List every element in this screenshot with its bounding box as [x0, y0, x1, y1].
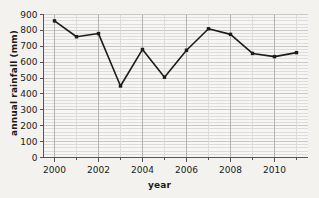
x-tick-label: 2010	[263, 165, 286, 175]
rainfall-line-chart: annual rainfall (mm) year 01002003004005…	[0, 0, 319, 198]
y-tick-label: 300	[0, 105, 38, 115]
y-tick-label: 0	[0, 153, 38, 163]
y-tick-label: 800	[0, 25, 38, 35]
x-tick-label: 2006	[175, 165, 198, 175]
y-tick-label: 600	[0, 57, 38, 67]
x-tick-label: 2004	[131, 165, 154, 175]
y-tick-label: 700	[0, 41, 38, 51]
y-tick-label: 400	[0, 89, 38, 99]
x-axis-tick-marks	[55, 158, 297, 162]
y-tick-label: 900	[0, 10, 38, 20]
y-tick-label: 500	[0, 73, 38, 83]
x-tick-label: 2008	[219, 165, 242, 175]
x-tick-label: 2002	[87, 165, 110, 175]
y-tick-label: 100	[0, 137, 38, 147]
y-tick-label: 200	[0, 121, 38, 131]
x-tick-label: 2000	[43, 165, 66, 175]
